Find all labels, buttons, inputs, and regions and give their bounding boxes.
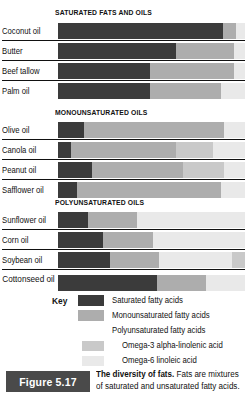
stacked-bar [58,252,245,268]
stacked-bar [58,232,245,248]
bar-segment-o6 [234,43,245,59]
bar-segment-mono [103,232,153,248]
chart-row: Safflower oil [0,180,251,200]
legend-item: Polyunsaturated fatty acids [0,324,251,339]
chart-group-saturated: Coconut oilButterBeef tallowPalm oil [0,21,251,101]
stacked-bar [58,182,245,198]
stacked-bar [58,23,245,39]
bar-segment-sat [58,43,176,59]
legend-items: Saturated fatty acidsMonounsaturated fat… [0,294,251,369]
figure-number-badge: Figure 5.17 [6,371,90,392]
bar-segment-o6 [224,162,245,178]
bar-segment-o6 [236,23,245,39]
bar-segment-mono [150,83,221,99]
chart-row-label: Soybean oil [2,250,53,270]
chart-row: Coconut oil [0,21,251,41]
bar-segment-sat [58,122,84,138]
bar-segment-sat [58,142,71,158]
bar-segment-sat [58,252,110,268]
legend-swatch-omega6 [82,356,104,366]
legend-label: Saturated fatty acids [112,294,183,307]
section-title-monounsaturated: MONOUNSATURATED OILS [55,108,147,117]
chart-group-polyunsaturated: Sunflower oilCorn oilSoybean oilCottonse… [0,210,251,296]
bar-segment-o6 [224,122,245,138]
chart-row: Olive oil [0,120,251,140]
chart-row: Peanut oil [0,160,251,180]
chart-row-label: Beef tallow [2,61,53,81]
figure-diversity-of-fats: SATURATED FATS AND OILS Coconut oilButte… [0,0,251,404]
bar-segment-sat [58,182,77,198]
chart-row-label: Corn oil [2,230,53,250]
bar-segment-sat [58,275,157,291]
bar-segment-mono [223,23,236,39]
bar-segment-mono [92,162,184,178]
legend-item: Monounsaturated fatty acids [0,309,251,324]
stacked-bar [58,63,245,79]
section-title-polyunsaturated: POLYUNSATURATED OILS [55,198,144,207]
bar-segment-o3 [183,162,224,178]
bar-segment-o6 [137,212,245,228]
legend-item: Saturated fatty acids [0,294,251,309]
bar-segment-o3 [232,252,245,268]
legend-label: Polyunsaturated fatty acids [112,324,205,337]
bar-segment-mono [88,212,137,228]
chart-row: Corn oil [0,230,251,250]
legend-swatch-omega3 [82,341,104,351]
legend-label: Monounsaturated fatty acids [112,309,210,322]
bar-segment-mono [157,275,206,291]
stacked-bar [58,275,245,291]
chart-row-label: Canola oil [2,140,53,160]
chart-row: Palm oil [0,81,251,101]
bar-segment-o6 [206,275,245,291]
bar-segment-o6 [221,182,245,198]
bar-segment-o6 [153,232,245,248]
stacked-bar [58,83,245,99]
legend-swatch-saturated [78,295,104,306]
bar-segment-mono [176,43,234,59]
stacked-bar [58,212,245,228]
bar-segment-sat [58,63,150,79]
legend-item: Omega-3 alpha-linolenic acid [0,339,251,354]
bar-segment-o3 [176,142,213,158]
chart-row-label: Sunflower oil [2,210,53,230]
bar-segment-o6 [221,83,245,99]
legend-swatch-monounsaturated [78,310,104,321]
chart-row-label: Safflower oil [2,180,53,200]
bar-segment-sat [58,162,92,178]
bar-segment-o6 [213,142,245,158]
chart-row: Cottonseed oil [0,270,251,296]
legend-item: Omega-6 linoleic acid [0,354,251,369]
chart-row: Beef tallow [0,61,251,81]
bar-segment-sat [58,232,103,248]
bar-segment-mono [150,63,234,79]
legend-label: Omega-3 alpha-linolenic acid [122,339,223,352]
bar-segment-mono [77,182,221,198]
chart-row: Canola oil [0,140,251,160]
stacked-bar [58,142,245,158]
bar-segment-o6 [234,63,245,79]
bar-segment-sat [58,212,88,228]
legend-key: Key Saturated fatty acidsMonounsaturated… [0,294,251,369]
chart-row-label: Cottonseed oil [0,270,57,290]
stacked-bar [58,162,245,178]
caption-bold: The diversity of fats. [96,369,174,379]
chart-row: Butter [0,41,251,61]
legend-label: Omega-6 linoleic acid [122,354,197,367]
figure-caption-text: The diversity of fats. Fats are mixtures… [96,369,243,392]
bar-segment-sat [58,23,223,39]
chart-row: Sunflower oil [0,210,251,230]
bar-segment-o6 [159,252,232,268]
chart-row: Soybean oil [0,250,251,270]
chart-row-label: Palm oil [2,81,53,101]
chart-row-label: Peanut oil [2,160,53,180]
chart-row-label: Coconut oil [2,21,53,41]
section-title-saturated: SATURATED FATS AND OILS [55,8,152,17]
chart-row-label: Olive oil [2,120,53,140]
chart-row-label: Butter [2,41,53,61]
bar-segment-sat [58,83,150,99]
stacked-bar [58,43,245,59]
bar-segment-mono [84,122,224,138]
stacked-bar [58,122,245,138]
bar-segment-mono [110,252,159,268]
chart-group-monounsaturated: Olive oilCanola oilPeanut oilSafflower o… [0,120,251,200]
